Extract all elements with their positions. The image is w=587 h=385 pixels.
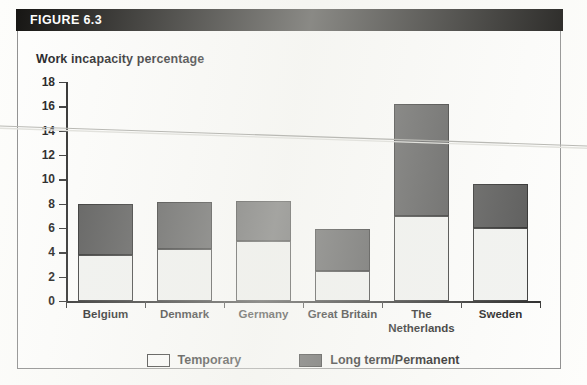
bar-denmark — [157, 202, 212, 301]
y-tick-label: 4 — [48, 245, 55, 259]
bar-segment-temporary — [394, 216, 449, 301]
category-label: Belgium — [66, 308, 145, 322]
y-tick-mark — [59, 106, 66, 107]
legend-label: Temporary — [178, 353, 242, 367]
figure-header-bar: FIGURE 6.3 — [16, 9, 563, 31]
y-tick-mark — [59, 301, 66, 302]
bar-the-netherlands — [394, 104, 449, 301]
chart-legend: TemporaryLong term/Permanent — [66, 353, 540, 367]
legend-swatch-long-term — [299, 354, 322, 367]
bar-segment-temporary — [315, 271, 370, 301]
y-tick-label: 16 — [42, 99, 55, 113]
x-tick-mark — [66, 301, 67, 308]
y-tick-label: 18 — [42, 75, 55, 89]
bar-segment-long-term — [473, 184, 528, 228]
bar-segment-temporary — [157, 249, 212, 301]
bar-sweden — [473, 184, 528, 301]
y-tick-mark — [59, 252, 66, 253]
bar-segment-long-term — [315, 229, 370, 270]
y-tick-mark — [59, 204, 66, 205]
category-label: Sweden — [461, 308, 540, 322]
bar-belgium — [78, 204, 133, 301]
y-tick-label: 0 — [48, 294, 55, 308]
category-label: Denmark — [145, 308, 224, 322]
figure-number-label: FIGURE 6.3 — [30, 13, 102, 27]
y-tick-label: 8 — [48, 197, 55, 211]
bar-segment-long-term — [236, 201, 291, 241]
x-tick-mark — [382, 301, 383, 308]
legend-swatch-temporary — [147, 354, 170, 367]
y-tick-label: 6 — [48, 221, 55, 235]
x-tick-mark — [145, 301, 146, 308]
bar-segment-temporary — [473, 228, 528, 301]
x-tick-mark — [461, 301, 462, 308]
category-label: Germany — [224, 308, 303, 322]
category-label: The Netherlands — [382, 308, 461, 335]
y-axis-line — [66, 82, 68, 301]
y-tick-mark — [59, 277, 66, 278]
chart-plot-area: 024681012141618 BelgiumDenmarkGermanyGre… — [66, 82, 540, 301]
y-tick-mark — [59, 228, 66, 229]
legend-item: Temporary — [147, 353, 242, 367]
category-label: Great Britain — [303, 308, 382, 322]
y-tick-mark — [59, 155, 66, 156]
legend-item: Long term/Permanent — [299, 353, 459, 367]
bar-great-britain — [315, 229, 370, 301]
y-tick-mark — [59, 82, 66, 83]
y-tick-label: 2 — [48, 270, 55, 284]
y-tick-label: 12 — [42, 148, 55, 162]
chart-title: Work incapacity percentage — [36, 52, 204, 66]
bar-segment-temporary — [236, 241, 291, 301]
y-tick-label: 14 — [42, 124, 55, 138]
y-tick-mark — [59, 131, 66, 132]
x-tick-mark — [303, 301, 304, 308]
y-tick-label: 10 — [42, 172, 55, 186]
bar-germany — [236, 201, 291, 301]
bar-segment-long-term — [78, 204, 133, 255]
x-tick-mark — [540, 301, 541, 308]
y-tick-mark — [59, 179, 66, 180]
x-tick-mark — [224, 301, 225, 308]
bar-segment-long-term — [157, 202, 212, 248]
bar-segment-temporary — [78, 255, 133, 301]
bar-segment-long-term — [394, 104, 449, 216]
legend-label: Long term/Permanent — [330, 353, 459, 367]
